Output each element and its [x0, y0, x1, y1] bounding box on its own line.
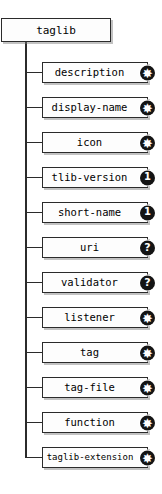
occurrence-badge-glyph: ✸ — [142, 136, 153, 149]
node-tag-file-label: tag-file — [64, 382, 126, 393]
occurrence-badge-star-icon: ✸ — [140, 135, 155, 150]
node-taglib-label: taglib — [36, 25, 76, 36]
node-function[interactable]: function✸ — [42, 412, 148, 433]
node-display-name[interactable]: display-name✸ — [42, 97, 148, 118]
node-function-label: function — [64, 417, 126, 428]
occurrence-badge-glyph: ✸ — [142, 311, 153, 324]
occurrence-badge-star-icon: ✸ — [140, 345, 155, 360]
node-taglib-extension[interactable]: taglib-extension✸ — [42, 447, 148, 468]
node-uri-label: uri — [80, 242, 110, 253]
node-tlib-version[interactable]: tlib-version1 — [42, 167, 148, 188]
node-taglib-extension-label: taglib-extension — [47, 453, 144, 462]
occurrence-badge-star-icon: ✸ — [140, 100, 155, 115]
node-short-name[interactable]: short-name1 — [42, 202, 148, 223]
occurrence-badge-glyph: ? — [144, 277, 150, 288]
node-tag-file[interactable]: tag-file✸ — [42, 377, 148, 398]
occurrence-badge-star-icon: ✸ — [140, 380, 155, 395]
node-short-name-label: short-name — [58, 207, 132, 218]
node-validator[interactable]: validator? — [42, 272, 148, 293]
occurrence-badge-qmark-icon: ? — [140, 275, 155, 290]
occurrence-badge-glyph: ✸ — [142, 101, 153, 114]
node-tlib-version-label: tlib-version — [52, 172, 139, 183]
occurrence-badge-glyph: ✸ — [142, 381, 153, 394]
node-taglib[interactable]: taglib — [1, 18, 111, 42]
occurrence-badge-glyph: ✸ — [142, 346, 153, 359]
occurrence-badge-glyph: ✸ — [142, 416, 153, 429]
node-validator-label: validator — [61, 277, 129, 288]
occurrence-badge-one-icon: 1 — [140, 170, 155, 185]
node-tag[interactable]: tag✸ — [42, 342, 148, 363]
node-description-label: description — [55, 67, 136, 78]
occurrence-badge-star-icon: ✸ — [140, 450, 155, 465]
occurrence-badge-star-icon: ✸ — [140, 415, 155, 430]
node-tag-label: tag — [80, 347, 110, 358]
schema-tree-diagram: taglib description✸display-name✸icon✸tli… — [0, 0, 162, 494]
node-display-name-label: display-name — [52, 102, 139, 113]
node-listener-label: listener — [64, 312, 126, 323]
occurrence-badge-one-icon: 1 — [140, 205, 155, 220]
occurrence-badge-glyph: 1 — [144, 172, 151, 182]
occurrence-badge-glyph: ✸ — [142, 66, 153, 79]
occurrence-badge-qmark-icon: ? — [140, 240, 155, 255]
occurrence-badge-glyph: ✸ — [142, 451, 153, 464]
node-icon-label: icon — [77, 137, 113, 148]
occurrence-badge-star-icon: ✸ — [140, 310, 155, 325]
node-uri[interactable]: uri? — [42, 237, 148, 258]
occurrence-badge-star-icon: ✸ — [140, 65, 155, 80]
occurrence-badge-glyph: 1 — [144, 207, 151, 217]
occurrence-badge-glyph: ? — [144, 242, 150, 253]
node-icon[interactable]: icon✸ — [42, 132, 148, 153]
node-description[interactable]: description✸ — [42, 62, 148, 83]
node-listener[interactable]: listener✸ — [42, 307, 148, 328]
